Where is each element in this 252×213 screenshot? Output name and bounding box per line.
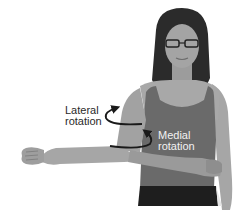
lateral-rotation-label: Lateral rotation xyxy=(65,105,102,127)
lateral-rotation-arrow-icon xyxy=(106,108,142,124)
rotation-arrows xyxy=(0,0,252,213)
medial-rotation-arrow-icon xyxy=(110,132,151,148)
medial-rotation-label-line2: rotation xyxy=(158,141,195,152)
rotation-figure: Lateral rotation Medial rotation xyxy=(0,0,252,213)
medial-rotation-label: Medial rotation xyxy=(158,130,195,152)
lateral-rotation-label-line2: rotation xyxy=(65,116,102,127)
